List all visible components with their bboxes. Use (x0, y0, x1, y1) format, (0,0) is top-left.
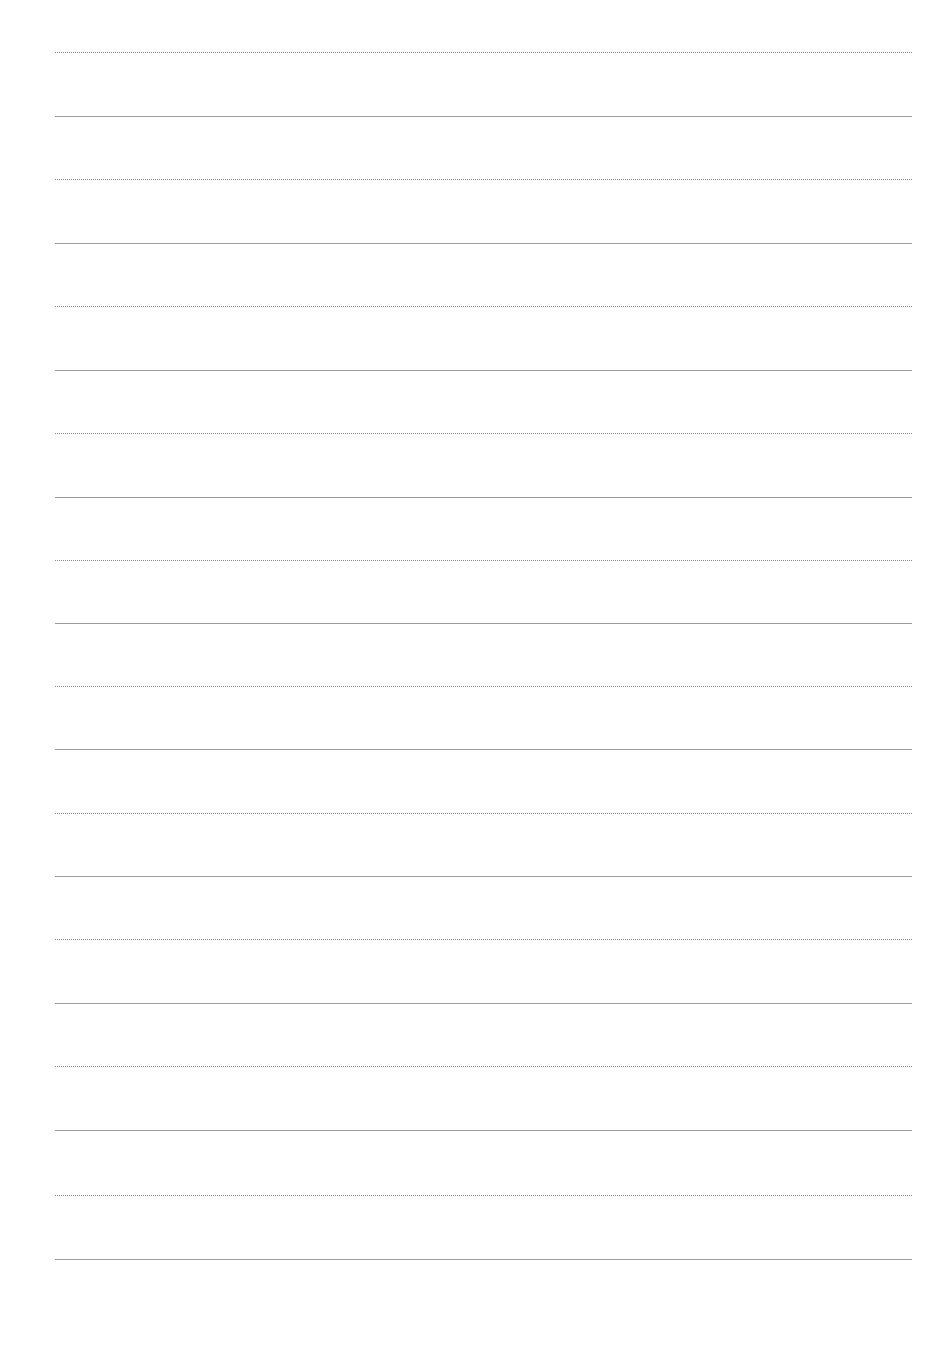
dotted-rule-line (55, 52, 912, 53)
solid-rule-line (55, 623, 912, 624)
solid-rule-line (55, 876, 912, 877)
solid-rule-line (55, 749, 912, 750)
ruled-page (0, 0, 943, 1354)
solid-rule-line (55, 1259, 912, 1260)
solid-rule-line (55, 1003, 912, 1004)
dotted-rule-line (55, 1066, 912, 1067)
dotted-rule-line (55, 939, 912, 940)
dotted-rule-line (55, 813, 912, 814)
dotted-rule-line (55, 306, 912, 307)
solid-rule-line (55, 497, 912, 498)
dotted-rule-line (55, 560, 912, 561)
solid-rule-line (55, 116, 912, 117)
dotted-rule-line (55, 179, 912, 180)
dotted-rule-line (55, 686, 912, 687)
solid-rule-line (55, 370, 912, 371)
solid-rule-line (55, 243, 912, 244)
dotted-rule-line (55, 433, 912, 434)
dotted-rule-line (55, 1195, 912, 1196)
solid-rule-line (55, 1130, 912, 1131)
